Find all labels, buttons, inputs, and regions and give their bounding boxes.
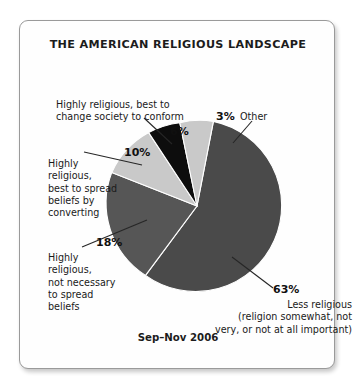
chart-footer-date: Sep–Nov 2006 <box>20 332 336 343</box>
label-less-religious: Less religious (religion somewhat, not v… <box>180 299 352 336</box>
label-change-society: Highly religious, best to change society… <box>56 99 236 124</box>
label-not-necessary: Highly religious, not necessary to sprea… <box>48 252 136 313</box>
chart-card: THE AMERICAN RELIGIOUS LANDSCAPE <box>19 20 335 369</box>
value-label-less-religious: 63% <box>273 283 299 296</box>
value-label-other: 3% <box>216 110 235 123</box>
value-label-change-society: 6% <box>170 125 189 138</box>
value-label-not-necessary: 18% <box>96 236 122 249</box>
label-converting: Highly religious, best to spread beliefs… <box>48 158 130 219</box>
label-other: Other <box>240 111 267 123</box>
figure-root: THE AMERICAN RELIGIOUS LANDSCAPE <box>0 0 355 392</box>
